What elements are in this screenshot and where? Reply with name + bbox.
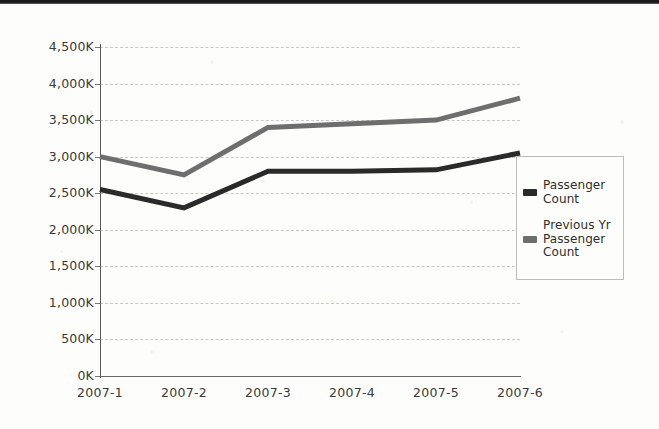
- x-axis-labels: 2007-12007-22007-32007-42007-52007-6: [100, 385, 530, 407]
- scan-speckle: [470, 200, 473, 204]
- scan-speckle: [60, 250, 63, 253]
- y-axis-tick-label: 0K: [77, 368, 94, 383]
- scan-speckle: [330, 300, 335, 303]
- chart-page: 4,500K4,000K3,500K3,000K2,500K2,000K1,50…: [0, 0, 659, 429]
- scan-speckle: [90, 110, 93, 114]
- y-axis-labels: 4,500K4,000K3,500K3,000K2,500K2,000K1,50…: [0, 47, 94, 376]
- x-axis-tick-label: 2007-5: [413, 385, 459, 400]
- scan-speckle: [620, 120, 624, 124]
- legend-item-label: Previous Yr Passenger Count: [543, 219, 623, 260]
- y-axis-tick-label: 500K: [61, 331, 94, 346]
- series-line: [100, 153, 520, 208]
- legend-item-previous-yr-passenger-count[interactable]: Previous Yr Passenger Count: [523, 219, 623, 260]
- line-chart: 4,500K4,000K3,500K3,000K2,500K2,000K1,50…: [0, 0, 659, 429]
- x-axis-line: [100, 376, 521, 377]
- scan-speckle: [150, 350, 155, 354]
- scan-speckle: [260, 180, 265, 183]
- y-axis-tick-label: 1,500K: [49, 258, 94, 273]
- y-axis-tick-label: 4,000K: [49, 76, 94, 91]
- scan-speckle: [430, 40, 433, 43]
- legend-item-label: Passenger Count: [543, 179, 623, 206]
- x-axis-tick-label: 2007-6: [497, 385, 543, 400]
- y-axis-tick-label: 3,500K: [49, 112, 94, 127]
- chart-legend: Passenger Count Previous Yr Passenger Co…: [516, 156, 624, 280]
- y-axis-tick-label: 1,000K: [49, 295, 94, 310]
- series-lines: [100, 47, 520, 376]
- x-axis-tick-label: 2007-2: [161, 385, 207, 400]
- y-axis-tick-label: 2,000K: [49, 222, 94, 237]
- x-axis-tick-label: 2007-4: [329, 385, 375, 400]
- y-axis-tick-label: 2,500K: [49, 185, 94, 200]
- legend-color-swatch: [523, 236, 537, 243]
- x-axis-tick-label: 2007-1: [77, 385, 123, 400]
- y-axis-tick-label: 4,500K: [49, 39, 94, 54]
- legend-color-swatch: [523, 189, 537, 196]
- x-axis-tick-label: 2007-3: [245, 385, 291, 400]
- legend-item-passenger-count[interactable]: Passenger Count: [523, 179, 623, 206]
- scan-speckle: [210, 60, 214, 64]
- y-axis-tick-label: 3,000K: [49, 149, 94, 164]
- scan-speckle: [560, 330, 564, 333]
